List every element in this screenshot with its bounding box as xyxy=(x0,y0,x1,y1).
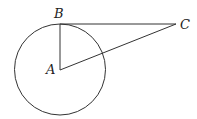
label-c: C xyxy=(180,17,190,32)
label-a: A xyxy=(45,62,55,77)
label-b: B xyxy=(53,6,64,21)
segment-ac xyxy=(60,24,176,70)
geometry-diagram: B A C xyxy=(0,0,197,119)
